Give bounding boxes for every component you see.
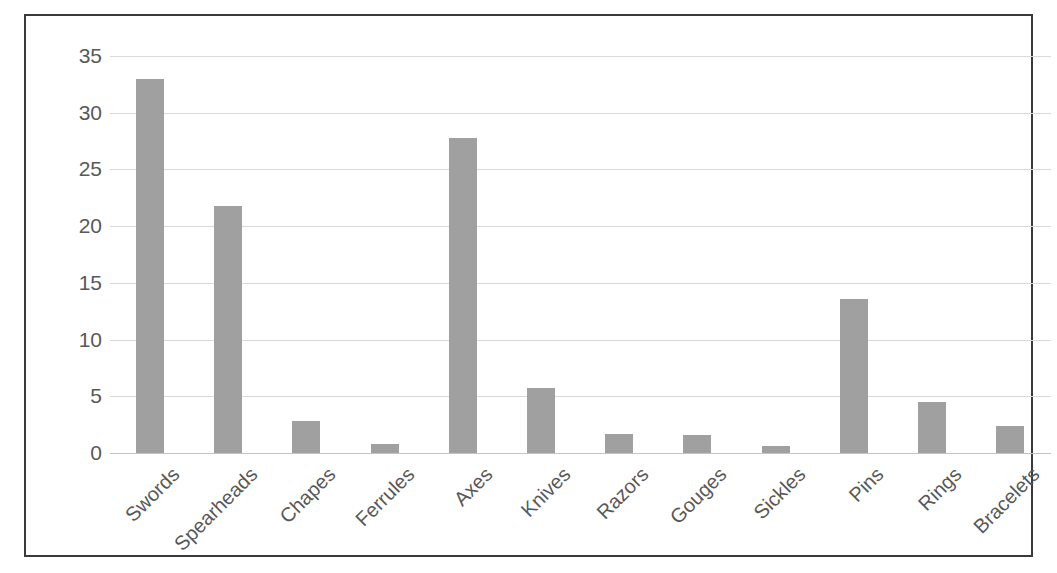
- y-tick-label: 30: [48, 102, 102, 123]
- x-tick-knives: Knives: [517, 463, 576, 522]
- x-tick-label: Sickles: [749, 463, 810, 524]
- y-tick-label: 20: [48, 215, 102, 236]
- x-tick-chapes: Chapes: [276, 463, 341, 528]
- bars-layer: [110, 56, 1051, 453]
- x-tick-gouges: Gouges: [666, 463, 732, 529]
- y-tick-label: 15: [48, 272, 102, 293]
- x-tick-label: Bracelets: [969, 463, 1044, 538]
- x-tick-label: Axes: [449, 463, 497, 511]
- bar-axes[interactable]: [449, 138, 477, 453]
- bar-gouges[interactable]: [683, 435, 711, 453]
- y-tick-label: 35: [48, 45, 102, 66]
- x-tick-sickles: Sickles: [749, 463, 810, 524]
- x-tick-label: Knives: [517, 463, 576, 522]
- x-tick-swords: Swords: [121, 463, 184, 526]
- x-tick-razors: Razors: [592, 463, 653, 524]
- bar-rings[interactable]: [918, 402, 946, 453]
- x-tick-label: Pins: [844, 463, 888, 507]
- bar-spearheads[interactable]: [214, 206, 242, 453]
- x-axis-tick-labels: SwordsSpearheadsChapesFerrulesAxesKnives…: [110, 453, 1051, 573]
- bar-ferrules[interactable]: [371, 444, 399, 453]
- y-tick-label: 5: [48, 385, 102, 406]
- x-tick-label: Gouges: [666, 463, 732, 529]
- chart-frame: 05101520253035 SwordsSpearheadsChapesFer…: [24, 14, 1033, 557]
- x-tick-rings: Rings: [914, 463, 966, 515]
- bar-bracelets[interactable]: [996, 426, 1024, 453]
- bar-pins[interactable]: [840, 299, 868, 453]
- y-tick-label: 25: [48, 158, 102, 179]
- x-tick-pins: Pins: [844, 463, 888, 507]
- x-tick-bracelets: Bracelets: [969, 463, 1044, 538]
- x-tick-label: Swords: [121, 463, 184, 526]
- bar-swords[interactable]: [136, 79, 164, 453]
- x-tick-label: Spearheads: [170, 463, 263, 556]
- y-axis-tick-labels: 05101520253035: [40, 56, 102, 453]
- bar-chart-figure: 05101520253035 SwordsSpearheadsChapesFer…: [0, 0, 1057, 573]
- x-tick-label: Rings: [914, 463, 966, 515]
- bar-razors[interactable]: [605, 434, 633, 453]
- bar-knives[interactable]: [527, 388, 555, 453]
- x-tick-ferrules: Ferrules: [351, 463, 419, 531]
- x-tick-spearheads: Spearheads: [170, 463, 263, 556]
- y-tick-label: 0: [48, 442, 102, 463]
- x-tick-label: Razors: [592, 463, 653, 524]
- bar-sickles[interactable]: [762, 446, 790, 453]
- x-tick-label: Chapes: [276, 463, 341, 528]
- x-tick-axes: Axes: [449, 463, 497, 511]
- y-tick-label: 10: [48, 329, 102, 350]
- x-tick-label: Ferrules: [351, 463, 419, 531]
- bar-chapes[interactable]: [292, 421, 320, 453]
